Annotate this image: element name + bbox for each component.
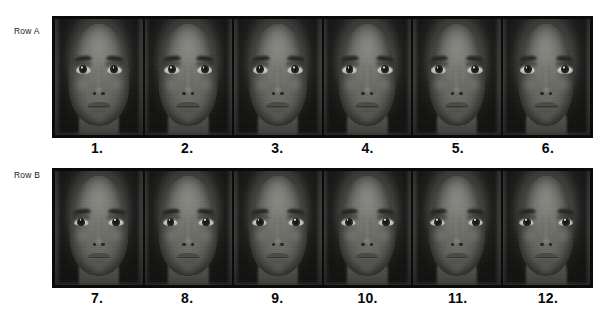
eye-glint-right (294, 219, 296, 221)
nostril-left (451, 243, 455, 246)
face-caption-5: 5. (413, 140, 503, 156)
face-caption-3: 3. (232, 140, 322, 156)
caption-row-a: 1. 2. 3. 4. 5. 6. (52, 140, 593, 156)
face-caption-6: 6. (503, 140, 593, 156)
cheek-right (108, 228, 126, 243)
cheek-right (108, 77, 126, 92)
eye-glint-left (80, 219, 82, 221)
face-panel-3 (234, 19, 324, 135)
eye-right (287, 65, 302, 74)
cheek-left (252, 77, 270, 92)
face-panel-12 (503, 171, 591, 285)
iris-left (77, 218, 85, 226)
eye-glint-right (384, 219, 386, 221)
eye-glint-left (258, 219, 260, 221)
iris-left (256, 218, 264, 226)
eye-glint-right (383, 66, 385, 68)
face-panel-2 (145, 19, 235, 135)
eye-glint-left (347, 219, 349, 221)
chin-region (445, 115, 468, 123)
face-image-12 (503, 171, 591, 285)
face-image-9 (234, 171, 322, 285)
chin-region (87, 266, 110, 274)
face-caption-11: 11. (413, 290, 503, 306)
nostril-right (101, 243, 105, 246)
chin-region (535, 266, 558, 274)
cheek-right (555, 77, 573, 92)
face-caption-7: 7. (52, 290, 142, 306)
eye-glint-right (564, 219, 566, 221)
eye-right (198, 218, 213, 227)
chin-region (177, 115, 200, 123)
iris-right (201, 65, 209, 74)
cheek-right (555, 228, 573, 243)
eye-glint-left (526, 66, 528, 68)
cheek-left (73, 77, 91, 92)
cheek-right (376, 228, 394, 243)
face-caption-10: 10. (323, 290, 413, 306)
cheek-left (520, 228, 538, 243)
face-panel-4 (324, 19, 414, 135)
eye-right (377, 65, 392, 74)
chin-region (356, 115, 379, 123)
chin-region (266, 266, 289, 274)
face-image-4 (324, 19, 412, 135)
iris-left (434, 218, 442, 226)
nostril-right (101, 92, 105, 95)
nostril-right (459, 243, 463, 246)
iris-left (79, 65, 87, 74)
eye-left (164, 65, 179, 74)
nostril-right (191, 243, 195, 246)
eye-glint-left (81, 66, 83, 68)
iris-right (202, 218, 210, 226)
eye-right (197, 65, 212, 74)
nostril-left (361, 243, 365, 246)
row-label-a: Row A (14, 26, 40, 36)
face-strip-row-b (52, 168, 593, 288)
cheek-left (341, 228, 359, 243)
cheek-right (287, 228, 305, 243)
cheek-left (252, 228, 270, 243)
eye-glint-right (113, 66, 115, 68)
face-panel-6 (503, 19, 591, 135)
eye-glint-right (473, 66, 475, 68)
eye-left (163, 218, 178, 227)
chin-region (266, 115, 289, 123)
eye-right (467, 65, 482, 74)
face-panel-9 (234, 171, 324, 285)
face-caption-4: 4. (323, 140, 413, 156)
iris-left (346, 65, 354, 74)
face-strip-row-a (52, 16, 593, 138)
face-image-11 (413, 171, 501, 285)
face-image-7 (55, 171, 143, 285)
iris-right (561, 65, 569, 74)
face-panel-10 (324, 171, 414, 285)
eye-glint-right (563, 66, 565, 68)
eye-glint-right (204, 219, 206, 221)
nostril-right (459, 92, 463, 95)
face-panel-5 (413, 19, 503, 135)
iris-left (523, 218, 531, 226)
cheek-right (287, 77, 305, 92)
iris-right (471, 65, 479, 74)
face-caption-9: 9. (232, 290, 322, 306)
eye-right (107, 65, 122, 74)
nostril-left (93, 243, 97, 246)
eye-glint-right (474, 219, 476, 221)
iris-right (382, 218, 390, 226)
face-panel-7 (55, 171, 145, 285)
face-panel-8 (145, 171, 235, 285)
cheek-left (431, 77, 449, 92)
cropped-header-text-strip: · · · · (0, 0, 611, 10)
eye-left (342, 65, 357, 74)
face-image-3 (234, 19, 322, 135)
eye-right (557, 65, 572, 74)
nostril-left (540, 243, 544, 246)
nostril-right (549, 243, 553, 246)
iris-right (292, 218, 300, 226)
nostril-left (182, 243, 186, 246)
cheek-left (520, 77, 538, 92)
cheek-left (431, 228, 449, 243)
cheek-left (162, 77, 180, 92)
eye-glint-left (525, 219, 527, 221)
